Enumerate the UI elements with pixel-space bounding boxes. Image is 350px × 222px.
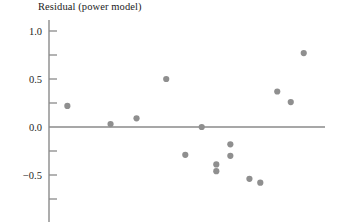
- data-points: [64, 50, 307, 186]
- data-point: [227, 153, 233, 159]
- y-axis-tick-label: −0.5: [4, 170, 42, 181]
- data-point: [163, 76, 169, 82]
- y-axis-tick-label: 0.0: [4, 122, 42, 133]
- data-point: [246, 176, 252, 182]
- data-point: [288, 99, 294, 105]
- data-point: [199, 124, 205, 130]
- data-point: [274, 88, 280, 94]
- y-axis-tick-label: 0.5: [4, 74, 42, 85]
- data-point: [257, 180, 263, 186]
- data-point: [107, 121, 113, 127]
- data-point: [213, 161, 219, 167]
- data-point: [213, 168, 219, 174]
- data-point: [64, 103, 70, 109]
- plot-area: [0, 0, 350, 222]
- data-point: [227, 141, 233, 147]
- data-point: [182, 152, 188, 158]
- residual-plot-figure: Residual (power model) 1.00.50.0−0.5: [0, 0, 350, 222]
- data-point: [133, 115, 139, 121]
- y-axis-ticks: [49, 31, 57, 199]
- data-point: [301, 50, 307, 56]
- y-axis-tick-label: 1.0: [4, 26, 42, 37]
